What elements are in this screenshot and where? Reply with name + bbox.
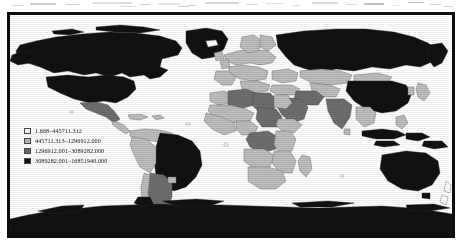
legend-row: 445711.313–1296912.000 — [24, 136, 107, 145]
legend-row: 1.668–445711.312 — [24, 126, 107, 135]
legend-label-class-1: 1.668–445711.312 — [35, 127, 82, 134]
legend-swatch-class-2 — [24, 138, 31, 144]
legend-label-class-3: 1296912.001–3089282.000 — [35, 147, 104, 154]
legend-swatch-class-3 — [24, 148, 31, 154]
legend-row: 1296912.001–3089282.000 — [24, 146, 107, 155]
legend-swatch-class-1 — [24, 128, 31, 134]
legend-row: 3089282.001–16851940.000 — [24, 156, 107, 165]
legend-label-class-4: 3089282.001–16851940.000 — [35, 157, 107, 164]
map-frame: .c0 { fill:#ffffff; stroke:#8a8a8a; stro… — [7, 12, 455, 238]
scan-artifact-band — [0, 0, 465, 11]
map-legend: 1.668–445711.312 445711.313–1296912.000 … — [22, 125, 109, 167]
legend-swatch-class-4 — [24, 158, 31, 164]
legend-label-class-2: 445711.313–1296912.000 — [35, 137, 101, 144]
